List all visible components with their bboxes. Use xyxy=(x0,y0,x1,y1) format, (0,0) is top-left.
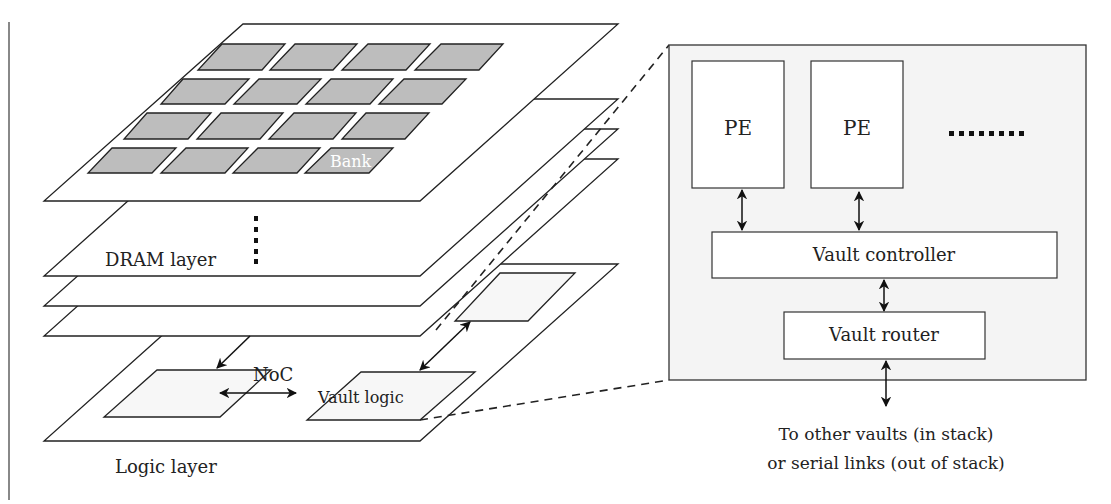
dram-layer-label: DRAM layer xyxy=(105,249,216,270)
bank-label: Bank xyxy=(330,152,372,171)
caption-line-2: or serial links (out of stack) xyxy=(767,453,1004,473)
logic-layer-label: Logic layer xyxy=(115,456,217,477)
pe-label-1: PE xyxy=(724,116,752,140)
noc-label: NoC xyxy=(253,364,293,385)
vault-controller-label: Vault controller xyxy=(812,244,956,265)
hmc-vault-diagram: Bank DRAM layer NoC Vault logic Logic la… xyxy=(0,0,1111,504)
caption-line-1: To other vaults (in stack) xyxy=(779,424,994,444)
vault-logic-label: Vault logic xyxy=(317,388,404,407)
pe-label-2: PE xyxy=(843,116,871,140)
vault-router-label: Vault router xyxy=(828,324,939,345)
